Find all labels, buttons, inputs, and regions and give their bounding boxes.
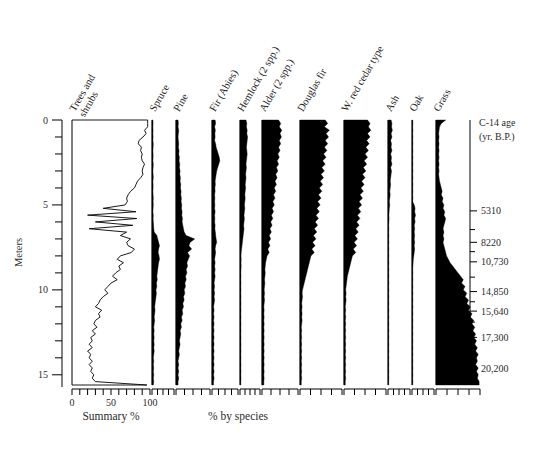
curve-douglas-fir — [300, 120, 329, 385]
column-grass: Grass — [431, 87, 480, 395]
column-ash: Ash — [383, 92, 410, 395]
depth-axis: 051015Meters — [13, 115, 62, 388]
column-fir-abies: Fir (Abies) — [207, 67, 241, 395]
summary-tick-label: 50 — [106, 397, 116, 408]
taxon-label-w-red-cedar-type: W. red cedar type — [339, 44, 386, 114]
taxon-label-line: W. red cedar type — [339, 44, 386, 114]
curve-alder — [262, 120, 282, 385]
age-axis-title-line2: (yr. B.P.) — [479, 131, 515, 143]
summary-tick-label: 100 — [143, 397, 158, 408]
curve-grass — [436, 120, 479, 385]
curve-hemlock — [240, 120, 248, 385]
age-axis-title-line1: C-14 age — [479, 117, 516, 128]
taxon-label-ash: Ash — [383, 92, 401, 113]
depth-tick-label: 0 — [43, 115, 48, 126]
taxon-label-spruce: Spruce — [147, 82, 171, 113]
pollen-diagram-svg: 051015Meters050100Summary %Trees andshru… — [0, 0, 547, 450]
taxon-label-line: Douglas fir — [295, 66, 329, 113]
column-trees-and-shrubs: Trees andshrubs — [67, 72, 147, 385]
age-axis: 5310822010,73014,85015,64017,30020,200C-… — [470, 117, 516, 385]
species-caption-group: % by species — [208, 410, 269, 423]
curve-w-red-cedar-type — [344, 120, 371, 385]
curve-trees-and-shrubs — [88, 120, 148, 385]
taxon-label-line: Pine — [171, 91, 190, 113]
depth-axis-label: Meters — [13, 238, 24, 267]
taxon-label-grass: Grass — [431, 87, 452, 113]
column-w-red-cedar-type: W. red cedar type — [339, 44, 386, 395]
taxon-label-pine: Pine — [171, 91, 190, 113]
column-douglas-fir: Douglas fir — [295, 66, 342, 395]
age-tick-label: 14,850 — [481, 286, 509, 297]
depth-tick-label: 10 — [38, 284, 48, 295]
age-tick-label: 15,640 — [481, 306, 509, 317]
taxon-label-oak: Oak — [407, 92, 426, 113]
column-spruce: Spruce — [147, 82, 174, 395]
summary-axis: 050100Summary % — [70, 389, 158, 423]
species-caption: % by species — [208, 410, 269, 423]
taxon-label-line: Spruce — [147, 82, 171, 113]
taxon-label-line: Grass — [431, 87, 452, 113]
summary-caption: Summary % — [82, 410, 140, 423]
column-pine: Pine — [171, 91, 210, 395]
summary-tick-label: 0 — [70, 397, 75, 408]
age-tick-label: 8220 — [481, 237, 501, 248]
taxon-label-trees-and-shrubs: Trees andshrubs — [67, 72, 107, 119]
taxon-label-line: Ash — [383, 92, 401, 113]
curve-ash — [388, 120, 392, 385]
taxon-label-line: Oak — [407, 92, 426, 113]
age-tick-label: 10,730 — [481, 256, 509, 267]
column-oak: Oak — [407, 92, 434, 395]
species-columns: Trees andshrubsSprucePineFir (Abies)Heml… — [67, 44, 480, 395]
age-tick-label: 17,300 — [481, 332, 509, 343]
age-tick-label: 5310 — [481, 205, 501, 216]
pollen-diagram-figure: 051015Meters050100Summary %Trees andshru… — [0, 0, 547, 450]
age-tick-label: 20,200 — [481, 363, 509, 374]
curve-oak — [412, 120, 416, 385]
column-alder: Alder (2 spp.) — [257, 57, 298, 395]
curve-spruce — [152, 120, 159, 385]
curve-fir-abies — [212, 120, 220, 385]
depth-tick-label: 5 — [43, 199, 48, 210]
taxon-label-douglas-fir: Douglas fir — [295, 66, 329, 113]
curve-pine — [176, 120, 195, 385]
depth-tick-label: 15 — [38, 369, 48, 380]
